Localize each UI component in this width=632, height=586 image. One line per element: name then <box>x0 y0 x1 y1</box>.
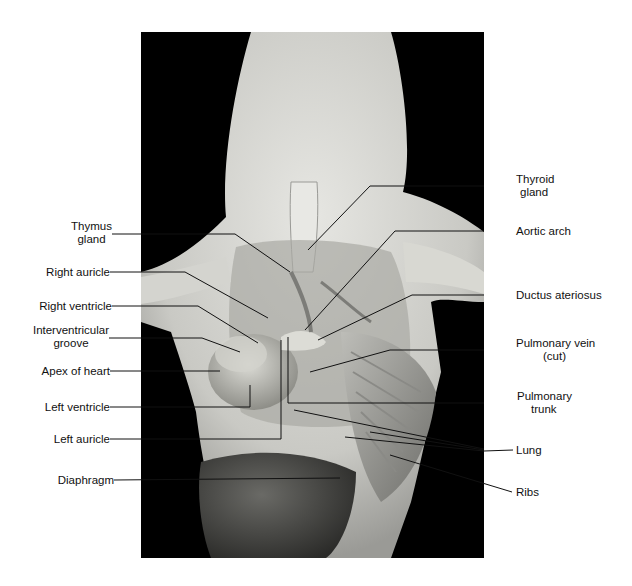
label-text: Thymus <box>71 220 112 233</box>
label-text: trunk <box>517 403 572 416</box>
leader-thymus <box>112 234 290 272</box>
label-text: groove <box>33 337 109 350</box>
label-ribs: Ribs <box>516 486 539 499</box>
leader-ductus <box>318 295 484 340</box>
label-text: (cut) <box>516 350 595 363</box>
leader-thyroid <box>308 186 484 250</box>
label-pulmonary-vein: Pulmonary vein (cut) <box>516 337 595 363</box>
label-thymus-gland: Thymus gland <box>71 220 112 246</box>
label-text: Interventricular <box>33 324 109 337</box>
label-ductus-ateriosus: Ductus ateriosus <box>516 289 602 302</box>
label-pulmonary-trunk: Pulmonary trunk <box>517 390 572 416</box>
label-text: Aortic arch <box>516 225 571 237</box>
leader-pulmonary-vein <box>310 350 484 372</box>
label-text: gland <box>516 186 554 199</box>
leader-ribs <box>390 455 512 492</box>
label-lung: Lung <box>516 444 542 457</box>
label-apex-of-heart: Apex of heart <box>42 365 110 378</box>
leader-right-ventricle <box>112 306 258 343</box>
label-text: Lung <box>516 444 542 456</box>
label-right-auricle: Right auricle <box>46 266 110 279</box>
label-text: Apex of heart <box>42 365 110 377</box>
label-text: Right ventricle <box>39 300 112 312</box>
leader-left-ventricle <box>110 385 250 407</box>
label-diaphragm: Diaphragm <box>58 474 114 487</box>
label-interventricular-groove: Interventricular groove <box>33 324 109 350</box>
label-text: Left ventricle <box>45 401 110 413</box>
label-aortic-arch: Aortic arch <box>516 225 571 238</box>
anatomy-figure: Thymus gland Right auricle Right ventric… <box>0 0 632 586</box>
label-text: Right auricle <box>46 266 110 278</box>
label-text: Pulmonary vein <box>516 337 595 350</box>
label-text: Ribs <box>516 486 539 498</box>
label-text: gland <box>71 233 112 246</box>
label-right-ventricle: Right ventricle <box>39 300 112 313</box>
label-text: Diaphragm <box>58 474 114 486</box>
leader-right-auricle <box>110 272 268 318</box>
leader-lung-ext <box>484 450 513 451</box>
label-left-auricle: Left auricle <box>54 433 110 446</box>
label-text: Left auricle <box>54 433 110 445</box>
label-text: Ductus ateriosus <box>516 289 602 301</box>
leader-diaphragm <box>114 478 340 480</box>
leader-interventricular-groove <box>109 338 240 352</box>
label-text: Pulmonary <box>517 390 572 403</box>
leader-left-auricle <box>110 340 281 439</box>
leader-aortic-arch <box>305 231 484 330</box>
leader-lung-1 <box>294 410 484 449</box>
label-thyroid-gland: Thyroid gland <box>516 173 554 199</box>
label-left-ventricle: Left ventricle <box>45 401 110 414</box>
label-text: Thyroid <box>516 173 554 186</box>
